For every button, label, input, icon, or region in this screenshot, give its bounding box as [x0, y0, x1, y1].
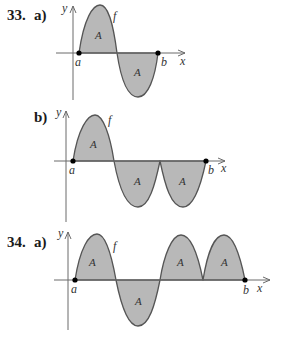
x-label: x	[220, 161, 227, 175]
b-label: b	[161, 55, 167, 69]
b-label: b	[208, 163, 214, 177]
area-label: A	[220, 256, 228, 268]
y-label: y	[57, 226, 64, 240]
part-label-a: a)	[34, 234, 47, 251]
area-label: A	[94, 29, 102, 41]
part-label-a: a)	[34, 7, 47, 24]
graph-33b: b) y x a b f A A A	[34, 105, 227, 222]
point-b	[242, 277, 247, 282]
a-label: a	[75, 55, 81, 69]
area-label: A	[133, 66, 141, 78]
y-label: y	[61, 1, 68, 15]
problem-number-33: 33.	[7, 7, 26, 23]
a-label: a	[69, 163, 75, 177]
area-label: A	[176, 256, 184, 268]
area-label: A	[134, 295, 142, 307]
point-b	[155, 50, 160, 55]
b-label: b	[243, 283, 249, 297]
f-label: f	[113, 239, 118, 253]
area-label: A	[178, 175, 186, 187]
problem-number-34: 34.	[7, 234, 26, 250]
area-label: A	[88, 256, 96, 268]
area-label: A	[133, 175, 141, 187]
f-label: f	[108, 113, 113, 127]
area-label: A	[89, 138, 97, 150]
f-label: f	[113, 9, 118, 23]
graph-34a: 34. a) y x a b f A A A A	[7, 226, 270, 330]
figure-canvas: 33. a) y x a b f A A b) y x a b f A A A	[0, 0, 283, 340]
y-label: y	[55, 105, 62, 119]
x-label: x	[179, 54, 186, 68]
x-label: x	[256, 281, 263, 295]
a-label: a	[71, 282, 77, 296]
part-label-b: b)	[34, 109, 47, 126]
graph-33a: 33. a) y x a b f A A	[7, 1, 186, 100]
